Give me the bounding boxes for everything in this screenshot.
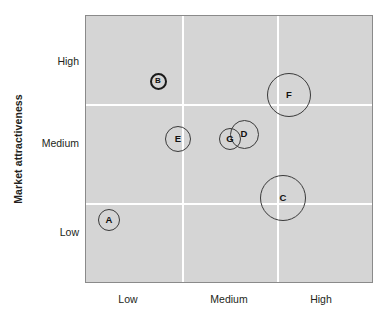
x-axis-tick-labels: LowMediumHigh xyxy=(0,293,388,313)
vertical-gridline-1 xyxy=(277,16,279,282)
bubble-label-f: F xyxy=(268,74,310,116)
bubble-label-e: E xyxy=(166,127,190,151)
bubble-label-b: B xyxy=(152,75,165,88)
bubble-label-a: A xyxy=(99,210,119,230)
bubble-c[interactable]: C xyxy=(260,175,306,221)
bubble-label-c: C xyxy=(261,176,305,220)
x-tick-low: Low xyxy=(118,293,137,305)
bubble-a[interactable]: A xyxy=(98,209,120,231)
y-axis-tick-labels: HighMediumLow xyxy=(0,0,79,323)
bubble-b[interactable]: B xyxy=(150,73,167,90)
bubble-label-g: G xyxy=(220,129,240,149)
bubble-matrix-chart: Market attractiveness HighMediumLow ABCD… xyxy=(0,0,388,323)
y-tick-high: High xyxy=(57,55,79,67)
horizontal-gridline-1 xyxy=(86,203,372,205)
plot-area: ABCDEFG xyxy=(85,15,373,283)
y-tick-low: Low xyxy=(60,226,79,238)
bubble-g[interactable]: G xyxy=(219,128,241,150)
bubble-e[interactable]: E xyxy=(165,126,191,152)
y-tick-medium: Medium xyxy=(42,137,79,149)
bubble-f[interactable]: F xyxy=(267,73,311,117)
x-tick-high: High xyxy=(310,293,332,305)
horizontal-gridline-0 xyxy=(86,104,372,106)
x-tick-medium: Medium xyxy=(210,293,247,305)
